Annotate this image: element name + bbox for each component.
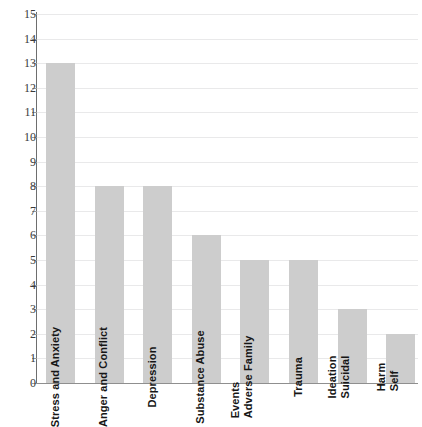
bar-category-label: Adverse FamilyEvents (229, 336, 255, 419)
y-tick-label: 4 (10, 279, 36, 291)
axis-baseline (37, 383, 418, 384)
bar-category-label: SelfHarm (375, 363, 401, 392)
y-tick-label: 6 (10, 229, 36, 241)
bar-category-label-line: Self (388, 371, 401, 392)
bar-category-label: SuicidalIdeation (326, 356, 352, 399)
gridline (37, 88, 418, 89)
y-tick-label: 10 (10, 131, 36, 143)
bar-category-label-line: Depression (146, 347, 158, 408)
bar: Stress and Anxiety (46, 63, 75, 383)
bar: SelfHarm (386, 334, 415, 383)
y-tick-label: 8 (10, 180, 36, 192)
bar: SuicidalIdeation (338, 309, 367, 383)
bar: Anger and Conflict (95, 186, 124, 383)
bar-category-label-line: Events (229, 382, 242, 419)
bar-category-label: Trauma (292, 357, 304, 397)
bar: Trauma (289, 260, 318, 383)
bar-category-label-line: Anger and Conflict (97, 327, 109, 427)
bar-category-label: Substance Abuse (194, 330, 206, 423)
y-tick-label: 11 (10, 106, 36, 118)
bar-category-label-line: Substance Abuse (194, 330, 206, 423)
bar: Depression (143, 186, 172, 383)
bar-category-label: Anger and Conflict (97, 327, 109, 427)
gridline (37, 137, 418, 138)
bar-category-label-line: Suicidal (339, 356, 352, 399)
bar-category-label: Stress and Anxiety (49, 327, 61, 427)
gridline (37, 112, 418, 113)
bar-category-label-line: Trauma (292, 357, 304, 397)
y-tick-label: 14 (10, 33, 36, 45)
bar-category-label: Depression (146, 347, 158, 408)
bar: Substance Abuse (192, 235, 221, 383)
gridline (37, 63, 418, 64)
gridline (37, 162, 418, 163)
bar-category-label-line: Adverse Family (242, 336, 255, 419)
y-tick-label: 13 (10, 57, 36, 69)
y-tick-label: 0 (10, 377, 36, 389)
y-tick-label: 9 (10, 156, 36, 168)
y-tick-label: 3 (10, 303, 36, 315)
y-tick-label: 7 (10, 205, 36, 217)
bar: Adverse FamilyEvents (240, 260, 269, 383)
bar-category-label-line: Ideation (326, 356, 339, 399)
y-tick-label: 12 (10, 82, 36, 94)
gridline (37, 14, 418, 15)
plot-area: Stress and AnxietyAnger and ConflictDepr… (37, 14, 418, 383)
gridline (37, 39, 418, 40)
bar-category-label-line: Harm (375, 363, 388, 392)
y-tick-label: 2 (10, 328, 36, 340)
bar-category-label-line: Stress and Anxiety (49, 327, 61, 427)
y-tick-label: 15 (10, 8, 36, 20)
y-tick-label: 1 (10, 352, 36, 364)
y-tick-label: 5 (10, 254, 36, 266)
